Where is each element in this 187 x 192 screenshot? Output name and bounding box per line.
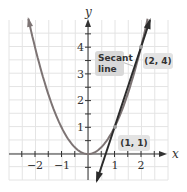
- point-2-4-label: (2, 4): [144, 56, 171, 66]
- parabola-arrow-icon: [27, 17, 33, 27]
- x-tick-label: 2: [138, 159, 145, 172]
- y-tick-label: 2: [77, 94, 84, 107]
- y-axis-arrow-icon: [85, 19, 91, 27]
- point-2-4-callout: (2, 4): [143, 53, 173, 69]
- point-1-1: [113, 125, 117, 129]
- x-tick-label: −1: [54, 159, 70, 172]
- y-tick-label: 1: [77, 121, 84, 134]
- secant-label-line2: line: [98, 64, 117, 74]
- y-tick-label: 3: [77, 68, 84, 81]
- x-axis-label: x: [172, 147, 179, 161]
- x-tick-label: −2: [27, 159, 43, 172]
- secant-label-line1: Secant: [98, 53, 133, 63]
- point-1-1-callout: (1, 1): [118, 135, 150, 151]
- x-axis-arrow-icon: [159, 151, 167, 157]
- point-2-4: [139, 45, 143, 49]
- y-tick-label: 4: [77, 41, 84, 54]
- x-tick-label: 1: [112, 159, 119, 172]
- chart-canvas: −2 −1 1 2 1 2 3 4 x y Secant line (2, 4)…: [0, 0, 187, 192]
- y-axis-label: y: [84, 5, 92, 19]
- point-1-1-label: (1, 1): [120, 138, 147, 148]
- secant-line: [97, 20, 150, 181]
- secant-line-callout: Secant line: [95, 51, 133, 76]
